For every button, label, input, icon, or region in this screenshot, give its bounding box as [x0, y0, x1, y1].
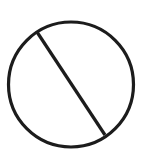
prohibited-svg	[0, 0, 142, 152]
diagonal-slash	[37, 32, 105, 135]
prohibited-icon: No / prohibited symbol	[0, 0, 142, 152]
